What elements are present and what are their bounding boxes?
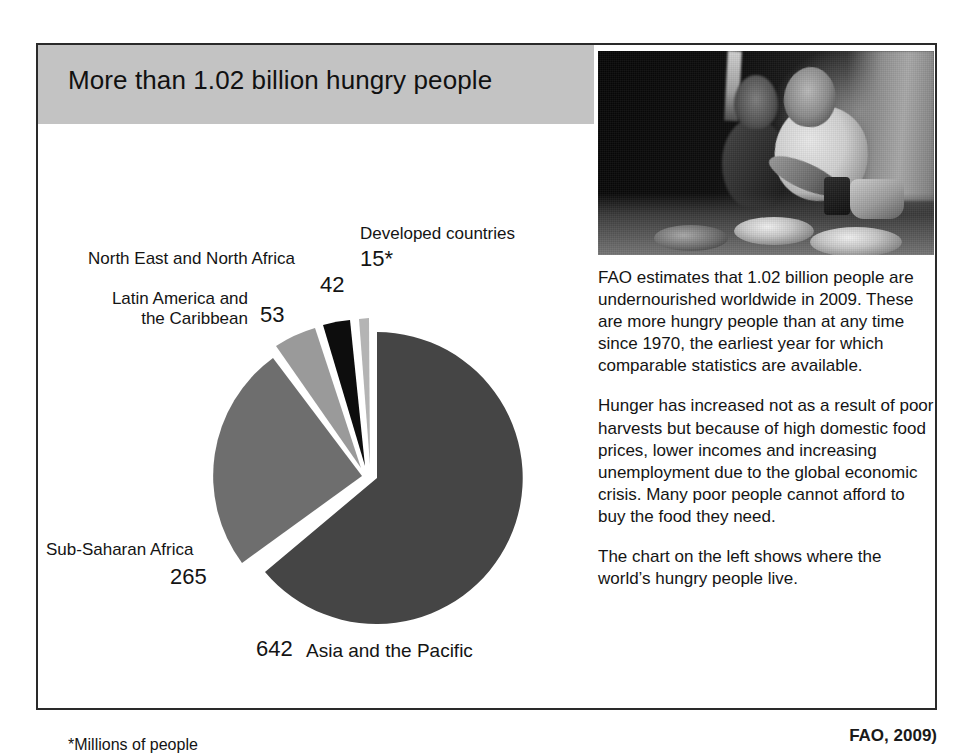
pie-label-developed-countries: Developed countries <box>360 224 515 244</box>
pie-label-north-east-north-africa: North East and North Africa <box>88 249 295 269</box>
infographic-panel: More than 1.02 billion hungry people <box>36 43 937 710</box>
paragraph-hunger-causes: Hunger has increased not as a result of … <box>598 395 934 528</box>
pie-label-latin-america-line2: the Caribbean <box>141 309 248 328</box>
title-band: More than 1.02 billion hungry people <box>38 45 594 124</box>
pie-value-latin-america: 53 <box>260 302 284 328</box>
pie-value-developed-countries: 15* <box>360 246 393 272</box>
pie-label-latin-america: Latin America andthe Caribbean <box>56 289 248 329</box>
pie-label-latin-america-line1: Latin America and <box>112 289 248 308</box>
pie-value-asia-pacific: 642 <box>256 636 293 662</box>
source-caption-text: FAO, 2009) <box>849 726 937 746</box>
pie-value-sub-saharan-africa: 265 <box>170 564 207 590</box>
pie-chart: Developed countries 15* North East and N… <box>38 124 594 710</box>
paragraph-fao-estimates: FAO estimates that 1.02 billion people a… <box>598 267 934 377</box>
pie-value-north-east-north-africa: 42 <box>320 272 344 298</box>
photo-film-grain <box>598 51 934 255</box>
paragraph-chart-explanation: The chart on the left shows where the wo… <box>598 546 934 590</box>
text-column: FAO estimates that 1.02 billion people a… <box>598 267 934 590</box>
page-title: More than 1.02 billion hungry people <box>68 65 492 96</box>
source-caption: FAO, 2009) <box>36 726 937 746</box>
pie-chart-svg <box>38 124 594 710</box>
pie-label-sub-saharan-africa: Sub-Saharan Africa <box>46 540 193 560</box>
photo-children-eating <box>598 51 934 255</box>
pie-label-asia-pacific: Asia and the Pacific <box>306 640 473 662</box>
